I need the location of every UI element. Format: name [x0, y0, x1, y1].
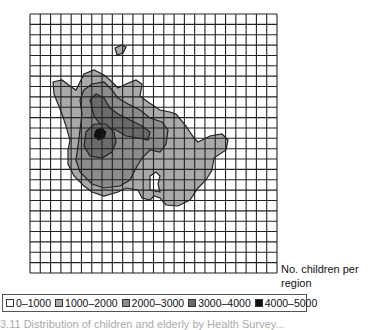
figure-caption: 3.11 Distribution of children and elderl… [0, 318, 285, 330]
legend-label: 0–1000 [16, 297, 51, 309]
region-island [115, 45, 126, 55]
swatch-4000-5000 [255, 299, 263, 307]
legend-label: 1000–2000 [65, 297, 118, 309]
swatch-2000-3000 [122, 299, 130, 307]
swatch-0-1000 [6, 299, 14, 307]
legend: 0–1000 1000–2000 2000–3000 3000–4000 400… [2, 294, 307, 312]
legend-item: 0–1000 [6, 297, 51, 309]
label-line-1: No. children per [281, 262, 371, 276]
legend-item: 3000–4000 [188, 297, 251, 309]
legend-item: 1000–2000 [55, 297, 118, 309]
density-regions [53, 45, 228, 206]
density-map [0, 0, 371, 290]
grid [30, 14, 277, 273]
region-hole [150, 172, 160, 192]
swatch-1000-2000 [55, 299, 63, 307]
legend-label: 2000–3000 [132, 297, 185, 309]
region-axis-label: No. children per region [281, 262, 371, 290]
legend-item: 2000–3000 [122, 297, 185, 309]
legend-label: 3000–4000 [198, 297, 251, 309]
swatch-3000-4000 [188, 299, 196, 307]
legend-label: 4000–5000 [265, 297, 318, 309]
label-line-2: region [281, 276, 371, 290]
legend-item: 4000–5000 [255, 297, 318, 309]
